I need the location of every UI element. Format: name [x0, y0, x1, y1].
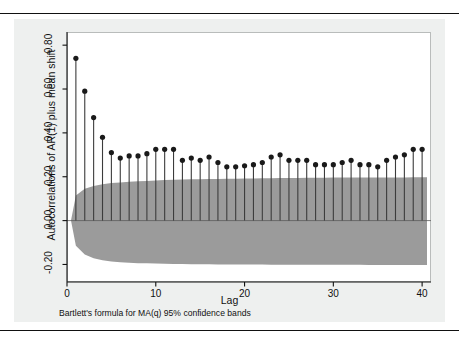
- acf-marker: [277, 152, 282, 157]
- acf-marker: [269, 154, 274, 159]
- acf-marker: [420, 147, 425, 152]
- correlogram-figure: Autocorrelations of AR(1) plus mean shif…: [14, 19, 445, 322]
- marker-group: [73, 56, 424, 170]
- acf-marker: [331, 162, 336, 167]
- acf-marker: [144, 151, 149, 156]
- acf-marker: [100, 135, 105, 140]
- page-rule-bottom: [0, 330, 459, 331]
- y-tick-label: 0.60: [43, 73, 54, 103]
- y-tick-label: 0.80: [43, 29, 54, 59]
- y-tick-label: -0.20: [43, 248, 54, 278]
- acf-marker: [366, 162, 371, 167]
- y-tick-label: 0.00: [43, 204, 54, 234]
- screenshot-page: Autocorrelations of AR(1) plus mean shif…: [0, 0, 459, 339]
- acf-marker: [233, 164, 238, 169]
- acf-marker: [251, 162, 256, 167]
- y-tick-label: 0.40: [43, 116, 54, 146]
- acf-marker: [171, 147, 176, 152]
- acf-marker: [349, 158, 354, 163]
- acf-marker: [402, 152, 407, 157]
- acf-marker: [189, 156, 194, 161]
- acf-marker: [295, 158, 300, 163]
- acf-marker: [286, 158, 291, 163]
- acf-marker: [109, 150, 114, 155]
- acf-marker: [118, 156, 123, 161]
- x-tick-label: 30: [313, 288, 353, 299]
- acf-marker: [375, 164, 380, 169]
- page-rule-top: [0, 13, 459, 14]
- acf-marker: [91, 115, 96, 120]
- acf-marker: [198, 158, 203, 163]
- acf-marker: [357, 162, 362, 167]
- acf-marker: [215, 160, 220, 165]
- confidence-band: [71, 177, 427, 265]
- chart-caption: Bartlett's formula for MA(q) 95% confide…: [59, 308, 251, 318]
- y-tick-label: 0.20: [43, 160, 54, 190]
- acf-marker: [206, 154, 211, 159]
- correlogram-chart: [14, 19, 445, 322]
- acf-marker: [313, 162, 318, 167]
- acf-marker: [340, 160, 345, 165]
- acf-marker: [73, 56, 78, 61]
- acf-marker: [180, 158, 185, 163]
- acf-marker: [135, 153, 140, 158]
- acf-marker: [260, 160, 265, 165]
- acf-marker: [153, 147, 158, 152]
- acf-marker: [322, 162, 327, 167]
- acf-marker: [393, 154, 398, 159]
- acf-marker: [411, 147, 416, 152]
- acf-marker: [304, 158, 309, 163]
- x-tick-label: 40: [402, 288, 442, 299]
- acf-marker: [82, 89, 87, 94]
- acf-marker: [242, 163, 247, 168]
- x-tick-label: 20: [225, 288, 265, 299]
- x-tick-label: 0: [47, 288, 87, 299]
- acf-marker: [162, 147, 167, 152]
- acf-marker: [224, 164, 229, 169]
- x-tick-label: 10: [136, 288, 176, 299]
- acf-marker: [384, 158, 389, 163]
- acf-marker: [127, 153, 132, 158]
